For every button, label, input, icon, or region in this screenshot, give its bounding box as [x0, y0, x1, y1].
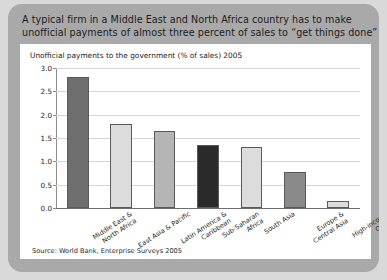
x-tick-label: South Asia — [263, 210, 297, 236]
y-tick-label: 3.0 — [41, 64, 52, 73]
bar — [241, 147, 263, 208]
bar-series — [56, 68, 360, 208]
x-tick-label: Europe &Central Asia — [307, 210, 349, 246]
y-tick-label: 0.0 — [41, 204, 52, 213]
y-tick-label: 2.5 — [41, 87, 52, 96]
chart-panel: Unofficial payments to the government (%… — [20, 44, 371, 259]
bar — [197, 145, 219, 208]
y-tick-mark — [53, 208, 56, 209]
bar-slot — [154, 68, 176, 208]
bar-slot — [284, 68, 306, 208]
bar — [110, 124, 132, 208]
bar-slot — [327, 68, 349, 208]
headline: A typical firm in a Middle East and Nort… — [8, 4, 379, 46]
info-card: A typical firm in a Middle East and Nort… — [8, 4, 379, 272]
chart-subtitle: Unofficial payments to the government (%… — [30, 51, 242, 60]
y-tick-label: 2.0 — [41, 110, 52, 119]
x-tick-label: Middle East &North Africa — [91, 210, 138, 248]
bar — [327, 201, 349, 208]
x-tick-label: High-incomeOECD — [351, 210, 379, 246]
y-tick-label: 1.5 — [41, 134, 52, 143]
figure-container: A typical firm in a Middle East and Nort… — [0, 0, 387, 280]
bar-slot — [67, 68, 89, 208]
headline-line-2: unofficial payments of almost three perc… — [22, 26, 365, 39]
y-tick-label: 0.5 — [41, 180, 52, 189]
bar-slot — [110, 68, 132, 208]
plot-area: 0.00.51.01.52.02.53.0 — [56, 68, 360, 208]
bar-slot — [197, 68, 219, 208]
bar — [284, 172, 306, 208]
headline-line-1: A typical firm in a Middle East and Nort… — [22, 13, 365, 26]
y-tick-label: 1.0 — [41, 157, 52, 166]
gridline — [56, 208, 360, 209]
bar — [154, 131, 176, 208]
bar — [67, 77, 89, 208]
source-note: Source: World Bank, Enterprise Surveys 2… — [32, 247, 182, 255]
bar-slot — [241, 68, 263, 208]
